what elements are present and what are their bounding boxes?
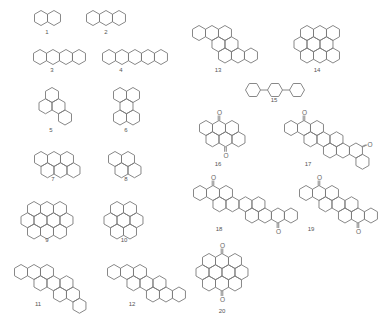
- compound-2: 2: [87, 11, 126, 36]
- benzene-ring: [218, 48, 231, 63]
- benzene-ring: [73, 298, 86, 313]
- oxygen-atom: O: [211, 174, 216, 181]
- benzene-ring: [59, 50, 72, 65]
- oxygen-atom: O: [217, 109, 222, 116]
- benzene-ring: [72, 50, 85, 65]
- compound-label: 7: [51, 176, 55, 182]
- benzene-ring: [213, 197, 226, 212]
- benzene-ring: [34, 276, 47, 291]
- compound-9: 9: [21, 202, 73, 244]
- benzene-ring: [193, 26, 206, 41]
- benzene-ring: [206, 132, 219, 147]
- compound-4: 4: [103, 50, 168, 74]
- benzene-ring: [326, 48, 339, 63]
- compound-label: 18: [216, 226, 223, 232]
- compound-17: OO17: [285, 109, 373, 170]
- benzene-ring: [112, 11, 125, 26]
- compound-label: 20: [219, 308, 226, 314]
- compound-7: 7: [35, 152, 80, 183]
- benzene-ring: [231, 48, 244, 63]
- benzene-ring: [146, 287, 159, 302]
- benzene-ring: [28, 224, 41, 239]
- oxygen-atom: O: [276, 228, 281, 235]
- compound-15: 15: [246, 84, 305, 104]
- compound-16: OO16: [200, 109, 245, 168]
- compound-5: 5: [39, 88, 71, 134]
- benzene-ring: [232, 132, 245, 147]
- benzene-ring: [314, 48, 327, 63]
- benzene-ring: [203, 276, 216, 291]
- compound-3: 3: [34, 50, 86, 74]
- oxygen-atom: O: [356, 228, 361, 235]
- compound-label: 15: [271, 97, 278, 103]
- benzene-ring: [87, 11, 100, 26]
- benzene-ring: [114, 110, 127, 125]
- compound-18: OO18: [194, 174, 298, 236]
- benzene-ring: [48, 11, 61, 26]
- benzene-ring: [246, 84, 261, 97]
- benzene-ring: [284, 208, 297, 223]
- benzene-ring: [103, 50, 116, 65]
- benzene-ring: [127, 110, 140, 125]
- compound-label: 8: [124, 176, 128, 182]
- compound-label: 3: [50, 67, 54, 73]
- benzene-ring: [15, 265, 28, 280]
- compound-label: 12: [129, 301, 136, 307]
- benzene-ring: [35, 11, 48, 26]
- compound-label: 13: [215, 67, 222, 73]
- compound-label: 6: [124, 127, 128, 133]
- benzene-ring: [39, 99, 52, 114]
- compound-label: 10: [121, 237, 128, 243]
- benzene-ring: [53, 287, 66, 302]
- benzene-ring: [172, 287, 185, 302]
- compound-label: 14: [314, 67, 321, 73]
- benzene-ring: [356, 154, 369, 169]
- benzene-ring: [244, 48, 257, 63]
- benzene-ring: [141, 50, 154, 65]
- compound-label: 1: [45, 29, 49, 35]
- benzene-ring: [34, 50, 47, 65]
- benzene-ring: [319, 197, 332, 212]
- benzene-ring: [59, 110, 72, 125]
- compound-label: 16: [215, 161, 222, 167]
- benzene-ring: [128, 50, 141, 65]
- benzene-ring: [216, 276, 229, 291]
- benzene-ring: [268, 84, 283, 97]
- oxygen-atom: O: [220, 296, 225, 303]
- benzene-ring: [323, 143, 336, 158]
- benzene-ring: [300, 186, 313, 201]
- compound-14: 14: [294, 26, 339, 74]
- benzene-ring: [304, 132, 317, 147]
- diagram-canvas: 123456789101112131415OO16OO17OO18OO19OO2…: [0, 0, 378, 327]
- benzene-ring: [245, 208, 258, 223]
- benzene-ring: [219, 132, 232, 147]
- benzene-ring: [290, 84, 305, 97]
- oxygen-atom: O: [302, 109, 307, 116]
- compound-8: 8: [109, 152, 141, 183]
- benzene-ring: [47, 50, 60, 65]
- benzene-ring: [159, 287, 172, 302]
- compound-10: 10: [104, 202, 143, 244]
- benzene-ring: [226, 197, 239, 212]
- oxygen-atom: O: [220, 242, 225, 249]
- benzene-ring: [336, 143, 349, 158]
- benzene-ring: [54, 163, 67, 178]
- oxygen-atom: O: [223, 152, 228, 159]
- benzene-ring: [271, 208, 284, 223]
- benzene-ring: [364, 208, 377, 223]
- benzene-ring: [154, 50, 167, 65]
- benzene-ring: [116, 50, 129, 65]
- benzene-ring: [100, 11, 113, 26]
- oxygen-atom: O: [317, 174, 322, 181]
- benzene-ring: [351, 208, 364, 223]
- benzene-ring: [228, 276, 241, 291]
- compound-19: OO19: [300, 174, 378, 236]
- benzene-ring: [67, 163, 80, 178]
- compound-label: 2: [104, 29, 108, 35]
- oxygen-atom: O: [367, 141, 372, 148]
- compound-20: OO20: [196, 242, 248, 315]
- benzene-ring: [108, 265, 121, 280]
- compound-12: 12: [108, 265, 186, 308]
- compound-11: 11: [15, 265, 86, 314]
- benzene-ring: [53, 224, 66, 239]
